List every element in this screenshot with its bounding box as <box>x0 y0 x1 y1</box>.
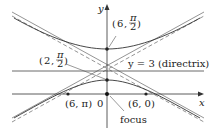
label-focus: focus <box>120 114 147 125</box>
svg-text:2: 2 <box>44 55 50 66</box>
hyperbola-diagram: y x 0 ( 6 , π 2 ) ( 2 , π 2 ) y = 3 (dir… <box>0 0 212 133</box>
point-x-intercept-right <box>144 92 147 95</box>
svg-text:(: ( <box>39 55 43 66</box>
svg-text:,: , <box>51 55 54 66</box>
svg-text:): ) <box>137 18 141 29</box>
origin-label: 0 <box>97 98 103 109</box>
point-vertex-lower <box>105 78 109 82</box>
svg-text:(: ( <box>112 18 116 29</box>
svg-text:2: 2 <box>130 21 136 32</box>
label-vertex-upper: ( 6 , π 2 ) <box>112 12 141 32</box>
svg-text:): ) <box>64 55 68 66</box>
svg-text:2: 2 <box>57 58 63 69</box>
point-x-intercept-left <box>66 92 69 95</box>
label-x-intercept-right: (6, 0) <box>128 98 155 109</box>
y-axis <box>105 4 110 128</box>
x-axis-label: x <box>199 97 205 108</box>
svg-text:6: 6 <box>117 18 123 29</box>
y-axis-label: y <box>97 3 104 14</box>
point-focus <box>105 92 109 96</box>
point-vertex-upper <box>105 47 109 51</box>
label-vertex-lower: ( 2 , π 2 ) <box>39 49 68 69</box>
directrix-label: y = 3 (directrix) <box>127 58 209 69</box>
label-x-intercept-left: (6, π) <box>65 98 92 109</box>
svg-text:,: , <box>124 18 127 29</box>
